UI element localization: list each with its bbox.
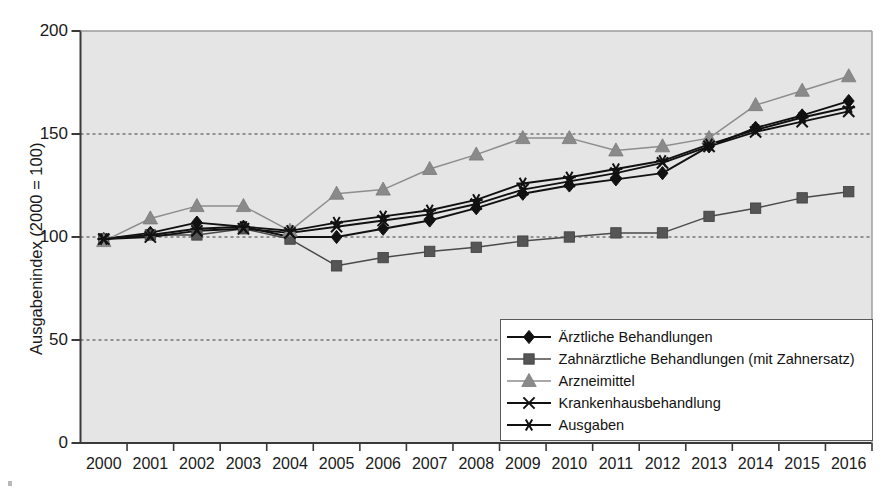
marker-square [611, 228, 621, 238]
marker-square [331, 261, 341, 271]
legend-item: Ausgaben [501, 414, 872, 436]
marker-asterisk [522, 419, 535, 430]
x-axis-tick-label: 2014 [730, 456, 782, 472]
marker-square [750, 203, 760, 213]
x-axis-tick-label: 2012 [636, 456, 688, 472]
marker-square [378, 252, 388, 262]
x-axis-tick-label: 2005 [311, 456, 363, 472]
x-axis-tick-label: 2000 [78, 456, 130, 472]
y-axis-title: Ausgabenindex (2000 = 100) [27, 143, 46, 355]
legend-label: Arzneimittel [557, 373, 635, 389]
chart-legend: Ärztliche BehandlungenZahnärztliche Beha… [500, 319, 873, 441]
marker-square [704, 211, 714, 221]
marker-square [518, 236, 528, 246]
marker-square [471, 242, 481, 252]
legend-symbol [507, 330, 551, 343]
legend-marker-x-icon [501, 392, 557, 414]
y-axis-tick-label: 150 [20, 125, 68, 142]
legend-marker-asterisk-icon [501, 414, 557, 436]
x-axis-tick-label: 2013 [683, 456, 735, 472]
legend-marker-diamond-icon [501, 326, 557, 348]
y-axis-tick-label: 200 [20, 22, 68, 39]
marker-diamond [523, 330, 534, 343]
marker-square [657, 228, 667, 238]
legend-symbol [507, 397, 551, 408]
legend-item: Zahnärztliche Behandlungen (mit Zahnersa… [501, 348, 872, 370]
expenditure-index-line-chart: 0501001502002000200120022003200420052006… [0, 0, 889, 492]
legend-item: Ärztliche Behandlungen [501, 326, 872, 348]
legend-symbol [507, 419, 551, 430]
x-axis-tick-label: 2011 [590, 456, 642, 472]
x-axis-tick-label: 2009 [497, 456, 549, 472]
legend-label: Ausgaben [557, 417, 625, 433]
x-axis-tick-label: 2016 [823, 456, 875, 472]
legend-marker-triangle-icon [501, 370, 557, 392]
legend-label: Zahnärztliche Behandlungen (mit Zahnersa… [557, 351, 855, 367]
x-axis-tick-label: 2001 [124, 456, 176, 472]
legend-item: Arzneimittel [501, 370, 872, 392]
marker-square [797, 193, 807, 203]
y-axis-tick-label: 0 [20, 434, 68, 451]
x-axis-tick-label: 2007 [404, 456, 456, 472]
x-axis-tick-label: 2015 [776, 456, 828, 472]
legend-label: Ärztliche Behandlungen [557, 329, 713, 345]
marker-square [844, 186, 854, 196]
x-axis-tick-label: 2003 [217, 456, 269, 472]
scan-artifact [8, 481, 12, 486]
x-axis-tick-label: 2010 [543, 456, 595, 472]
legend-label: Krankenhausbehandlung [557, 395, 721, 411]
x-axis-tick-label: 2002 [171, 456, 223, 472]
x-axis-tick-label: 2006 [357, 456, 409, 472]
legend-symbol [507, 373, 551, 386]
x-axis-tick-label: 2008 [450, 456, 502, 472]
legend-symbol [507, 353, 551, 363]
legend-marker-square-icon [501, 348, 557, 370]
marker-triangle [521, 373, 535, 386]
x-axis-tick-label: 2004 [264, 456, 316, 472]
marker-square [564, 232, 574, 242]
legend-item: Krankenhausbehandlung [501, 392, 872, 414]
marker-square [424, 246, 434, 256]
marker-square [523, 353, 533, 363]
